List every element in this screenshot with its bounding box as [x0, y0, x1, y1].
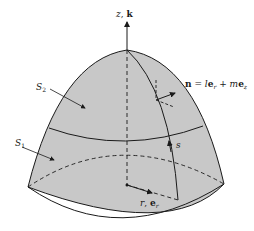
s1-label: S1: [15, 138, 25, 149]
surface-of-revolution-diagram: z, k n = ler + mez S2 S1 s r, er: [0, 0, 254, 231]
axis-label: z, k: [115, 9, 133, 19]
arc-length-label: s: [176, 140, 181, 150]
normal-label: n = ler + mez: [185, 79, 248, 90]
s2-label: S2: [36, 82, 46, 93]
dome-surface: [28, 50, 224, 213]
